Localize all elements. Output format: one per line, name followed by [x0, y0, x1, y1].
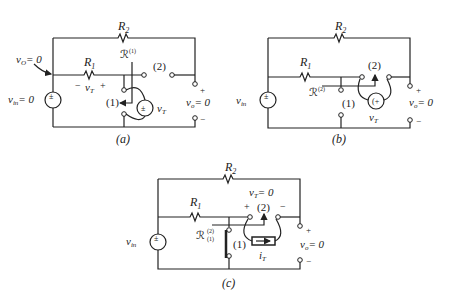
- svg-text:ℛ: ℛ: [196, 229, 205, 241]
- wire: [358, 79, 368, 100]
- svg-text:vo= 0: vo= 0: [186, 96, 211, 110]
- svg-text:(1): (1): [342, 97, 355, 110]
- svg-text:ℛ(2): ℛ(2): [309, 86, 325, 98]
- terminal: [408, 118, 413, 123]
- svg-text:R2: R2: [224, 160, 236, 176]
- r1-wire-a: [53, 71, 144, 79]
- caption-b: (b): [332, 132, 346, 146]
- terminal: [248, 215, 253, 220]
- wire: [275, 219, 281, 241]
- wire: [384, 79, 391, 100]
- svg-text:−: −: [280, 201, 286, 212]
- panel-c: ± R2 R1 ℛ (2) (1) vin vT= 0 + − (1) (2) …: [126, 160, 325, 290]
- svg-text:±: ±: [49, 92, 54, 101]
- terminal: [193, 116, 198, 121]
- terminal: [408, 84, 413, 89]
- svg-text:R1: R1: [189, 195, 201, 211]
- svg-text:(2): (2): [368, 59, 381, 72]
- svg-text:vT= 0: vT= 0: [249, 186, 274, 200]
- svg-text:vo= 0: vo= 0: [409, 96, 434, 110]
- terminal: [122, 88, 127, 93]
- svg-text:±: ±: [154, 234, 159, 243]
- svg-text:vin: vin: [236, 94, 247, 108]
- svg-text:(1): (1): [233, 238, 246, 251]
- svg-text:vin: vin: [126, 235, 137, 249]
- circuit-diagram: ± ± R2 R1 ℛ(1) vO= 0 vin= 0 − vT + (1) (…: [0, 0, 455, 304]
- arrow-icon: [212, 214, 264, 225]
- terminal: [360, 75, 365, 80]
- r1-wire-c: [158, 213, 248, 221]
- panel-a: ± ± R2 R1 ℛ(1) vO= 0 vin= 0 − vT + (1) (…: [8, 19, 211, 146]
- arrow-icon: [34, 64, 51, 74]
- svg-text:R1: R1: [83, 55, 95, 71]
- terminal: [339, 113, 344, 118]
- svg-text:+: +: [200, 85, 205, 95]
- caption-a: (a): [116, 132, 130, 146]
- svg-text:R2: R2: [334, 19, 346, 35]
- svg-text:−: −: [200, 114, 205, 124]
- svg-text:vO= 0: vO= 0: [16, 53, 42, 67]
- arrow-icon: [120, 62, 132, 103]
- terminal: [387, 75, 392, 80]
- svg-text:±: ±: [141, 104, 146, 113]
- svg-text:vin= 0: vin= 0: [8, 93, 35, 107]
- svg-text:iT: iT: [259, 249, 267, 263]
- svg-text:−: −: [75, 80, 81, 91]
- svg-text:vo= 0: vo= 0: [300, 238, 325, 252]
- terminal: [298, 258, 303, 263]
- svg-text:−: −: [416, 116, 421, 126]
- svg-text:ℛ(1): ℛ(1): [120, 48, 136, 60]
- svg-text:(1): (1): [106, 96, 119, 109]
- svg-text:vT: vT: [369, 111, 379, 125]
- svg-text:vT: vT: [85, 81, 95, 95]
- svg-text:±: ±: [264, 92, 269, 101]
- terminal: [298, 224, 303, 229]
- terminal: [170, 73, 175, 78]
- terminal: [142, 73, 147, 78]
- svg-text:vT: vT: [157, 102, 167, 116]
- svg-text:(2): (2): [257, 201, 270, 214]
- terminal: [276, 215, 281, 220]
- svg-text:(+: (+: [372, 97, 380, 106]
- terminal: [122, 112, 127, 117]
- svg-text:R2: R2: [117, 19, 129, 35]
- caption-c: (c): [222, 276, 235, 290]
- svg-text:−: −: [306, 256, 311, 266]
- terminal: [193, 82, 198, 87]
- svg-text:R1: R1: [299, 55, 311, 71]
- wire: [126, 88, 145, 100]
- terminal: [227, 254, 232, 259]
- r1-wire-b: [268, 73, 360, 81]
- svg-text:(1): (1): [207, 236, 214, 243]
- svg-text:(2): (2): [207, 228, 214, 235]
- svg-text:+: +: [244, 201, 250, 212]
- terminal: [339, 88, 344, 93]
- svg-text:+: +: [100, 80, 106, 91]
- svg-text:+: +: [416, 85, 421, 95]
- terminal: [227, 228, 232, 233]
- svg-text:+: +: [306, 225, 311, 235]
- svg-text:(2): (2): [153, 60, 166, 73]
- panel-b: ± (+ R2 R1 ℛ(2) vin (1) (2) vT + − vo= 0…: [236, 19, 434, 146]
